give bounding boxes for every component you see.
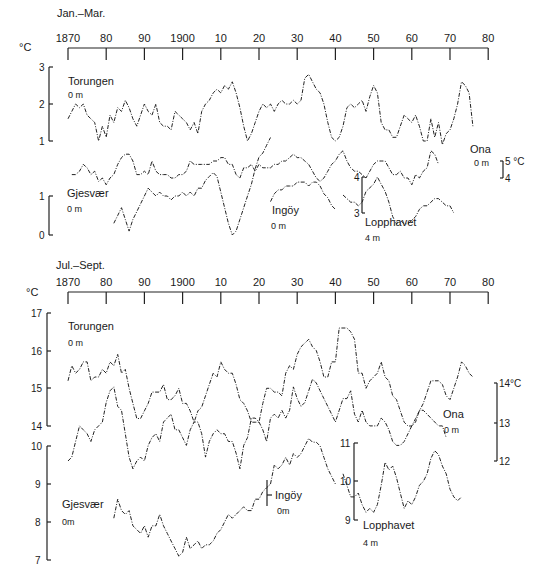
x-tick-label: 60 <box>406 276 418 288</box>
svg-text:14: 14 <box>31 421 43 432</box>
x-tick-label: 40 <box>329 276 341 288</box>
x-tick-label: 70 <box>444 32 456 44</box>
x-tick-label: 1900 <box>170 276 194 288</box>
top-unit-label: °C <box>19 41 31 53</box>
top-gjesvaer-depth: 0 m <box>67 204 82 214</box>
x-tick-label: 10 <box>215 32 227 44</box>
svg-text:15: 15 <box>31 383 43 394</box>
svg-text:4: 4 <box>505 173 511 184</box>
x-tick-label: 1870 <box>56 32 80 44</box>
svg-text:13: 13 <box>499 418 511 429</box>
svg-text:17: 17 <box>31 308 43 319</box>
top-torungen-scale: 3 2 1 <box>39 62 53 147</box>
x-tick-label: 40 <box>329 32 341 44</box>
bottom-torungen-label: Torungen <box>68 320 114 332</box>
svg-text:10: 10 <box>31 441 43 452</box>
svg-text:3: 3 <box>39 62 45 73</box>
bottom-lopphavet-depth: 4 m <box>363 538 378 548</box>
bottom-ona-scale: 14°C 13 12 <box>494 378 521 467</box>
svg-text:11: 11 <box>340 438 351 449</box>
top-ingoy-depth: 0 m <box>271 221 286 231</box>
x-tick-label: 60 <box>406 32 418 44</box>
x-tick-label: 90 <box>138 276 150 288</box>
bottom-lopphavet-label: Lopphavet <box>363 519 414 531</box>
series-lopphavet-line <box>343 451 462 513</box>
series-torungen-line <box>68 328 473 426</box>
x-tick-label: 10 <box>215 276 227 288</box>
top-torungen-label: Torungen <box>68 75 114 87</box>
bottom-lopphavet-scale: 11 10 9 <box>340 438 358 526</box>
svg-text:0: 0 <box>39 230 45 241</box>
x-tick-label: 1870 <box>56 276 80 288</box>
svg-text:1: 1 <box>39 136 45 147</box>
x-tick-label: 80 <box>482 276 494 288</box>
bottom-gjesvaer-label: Gjesvær <box>62 498 104 510</box>
series-gjesvr-line <box>114 138 271 236</box>
top-ingoy-label: Ingöy <box>272 204 299 216</box>
bottom-ingoy-label: Ingöy <box>275 489 302 501</box>
x-tick-label: 30 <box>291 276 303 288</box>
x-tick-label: 50 <box>367 32 379 44</box>
bottom-gjesvaer-scale: 10 9 8 7 <box>31 441 51 566</box>
svg-text:5 °C: 5 °C <box>505 156 525 167</box>
x-tick-label: 50 <box>367 276 379 288</box>
svg-text:8: 8 <box>35 517 41 528</box>
top-series <box>68 74 473 235</box>
top-lopphavet-scale: 4 3 <box>354 172 365 219</box>
svg-text:9: 9 <box>345 515 351 526</box>
x-tick-label: 20 <box>253 276 265 288</box>
x-tick-label: 80 <box>100 32 112 44</box>
svg-text:9: 9 <box>35 479 41 490</box>
top-panel-title: Jan.–Mar. <box>57 7 105 19</box>
bottom-unit-label: °C <box>26 286 38 298</box>
top-gjesvaer-label: Gjesvær <box>67 187 109 199</box>
series-ona-line <box>68 379 446 469</box>
svg-text:3: 3 <box>354 208 360 219</box>
bottom-ona-depth: 0 m <box>444 425 459 435</box>
svg-text:2: 2 <box>39 99 45 110</box>
bottom-gjesvaer-depth: 0m <box>62 517 75 527</box>
x-tick-label: 80 <box>100 276 112 288</box>
series-gjesvr-line <box>114 484 271 556</box>
bottom-ingoy-marker <box>267 480 272 506</box>
top-ona-label: Ona <box>470 143 492 155</box>
svg-text:7: 7 <box>35 555 41 566</box>
series-torungen-line <box>68 74 473 144</box>
series-ingy-line <box>271 438 336 484</box>
bottom-ingoy-depth: 0m <box>277 506 290 516</box>
svg-text:1: 1 <box>39 191 45 202</box>
bottom-x-axis: 1870809019001020304050607080 <box>56 276 495 304</box>
bottom-ona-label: Ona <box>443 408 465 420</box>
svg-text:16: 16 <box>31 346 43 357</box>
top-x-axis: 1870809019001020304050607080 <box>56 32 495 60</box>
svg-text:4: 4 <box>354 172 360 183</box>
top-torungen-depth: 0 m <box>68 90 83 100</box>
x-tick-label: 1900 <box>170 32 194 44</box>
top-gjesvaer-scale: 1 0 <box>39 191 53 241</box>
bottom-panel-title: Jul.–Sept. <box>56 259 105 271</box>
climate-chart: Jan.–Mar. °C 187080901900102030405060708… <box>0 0 543 578</box>
top-ona-depth: 0 m <box>474 158 489 168</box>
top-lopphavet-label: Lopphavet <box>365 216 416 228</box>
x-tick-label: 80 <box>482 32 494 44</box>
top-lopphavet-depth: 4 m <box>365 233 380 243</box>
x-tick-label: 90 <box>138 32 150 44</box>
bottom-torungen-depth: 0 m <box>68 338 83 348</box>
svg-text:14°C: 14°C <box>499 378 521 389</box>
x-tick-label: 30 <box>291 32 303 44</box>
svg-text:12: 12 <box>499 456 511 467</box>
bottom-torungen-scale: 17 16 15 14 <box>31 308 51 432</box>
top-ona-scale: 5 °C 4 <box>500 156 525 184</box>
x-tick-label: 70 <box>444 276 456 288</box>
x-tick-label: 20 <box>253 32 265 44</box>
